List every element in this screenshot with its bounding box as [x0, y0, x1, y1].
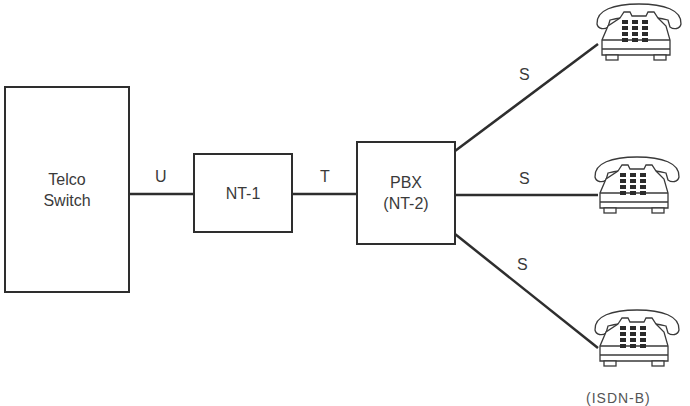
pbx-label-line1: PBX — [390, 172, 422, 193]
s-interface-line-bottom — [455, 234, 598, 348]
telephone-icon — [594, 2, 684, 64]
pbx-box: PBX (NT-2) — [356, 141, 456, 245]
telephone-icon — [592, 308, 682, 370]
nt1-box: NT-1 — [193, 153, 293, 233]
telco-switch-box: Telco Switch — [4, 86, 130, 293]
s-interface-line-top — [455, 44, 598, 151]
telco-switch-label-line2: Switch — [43, 190, 90, 211]
s-interface-label-bottom: S — [517, 257, 528, 273]
s-interface-label-middle: S — [519, 171, 530, 187]
nt1-label: NT-1 — [226, 183, 261, 204]
telco-switch-label-line1: Telco — [48, 169, 85, 190]
figure-caption: (ISDN-B) — [586, 391, 651, 405]
s-interface-label-top: S — [519, 67, 530, 83]
u-interface-label: U — [155, 169, 167, 185]
t-interface-label: T — [320, 169, 330, 185]
pbx-label-line2: (NT-2) — [383, 193, 428, 214]
telephone-icon — [592, 155, 682, 217]
